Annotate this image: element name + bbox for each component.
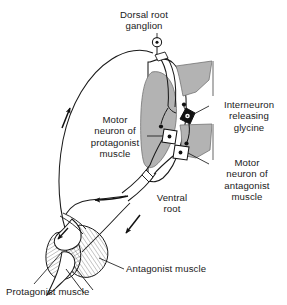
spinal-cord-cross-section	[141, 59, 214, 182]
ganglion-nucleus	[156, 41, 159, 44]
label-ventral-root: Ventral root	[146, 192, 198, 215]
motor-neuron-antagonist-nucleus	[179, 151, 183, 155]
label-interneuron-releasing-glycine: Interneuron releasing glycine	[212, 99, 286, 133]
label-dorsal-root-ganglion: Dorsal root ganglion	[103, 9, 185, 32]
reflex-arc-figure: Dorsal root ganglion Interneuron releasi…	[0, 0, 287, 305]
interneuron-nucleolus	[187, 115, 189, 117]
label-motor-neuron-antagonist: Motor neuron of antagonist muscle	[212, 157, 282, 203]
limb-joint-with-muscles	[46, 213, 108, 295]
label-protagonist-muscle: Protagonist muscle	[6, 286, 112, 297]
motor-neuron-protagonist-nucleus	[168, 135, 172, 139]
inhibitory-bouton-on-antagonist-motor-neuron	[184, 141, 188, 145]
label-antagonist-muscle: Antagonist muscle	[126, 263, 224, 274]
afferent-bouton-on-interneuron	[182, 102, 186, 106]
label-motor-neuron-protagonist: Motor neuron of protagonist muscle	[84, 114, 146, 160]
excitatory-bouton-on-protagonist-motor-neuron	[159, 124, 163, 128]
efferent-arrow-downleft	[126, 215, 140, 233]
proximal-bone-head	[54, 219, 81, 250]
motor-neuron-antagonist	[173, 145, 189, 160]
leader-interneuron	[192, 106, 209, 115]
